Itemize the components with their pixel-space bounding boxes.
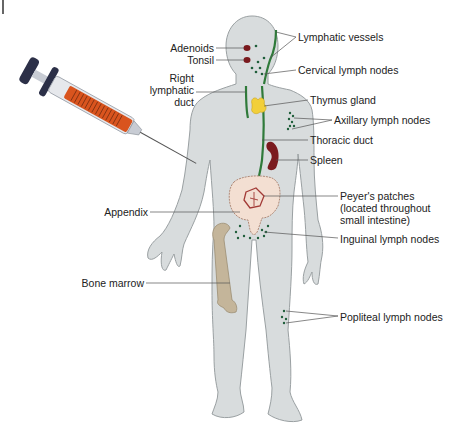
label-bone-marrow: Bone marrow [70, 277, 144, 289]
label-thoracic-duct: Thoracic duct [310, 134, 373, 146]
label-lymphatic-vessels: Lymphatic vessels [298, 31, 383, 43]
lymphatic-system-diagram: Adenoids Tonsil Right lymphatic duct App… [0, 0, 464, 444]
label-thymus-gland: Thymus gland [310, 94, 376, 106]
label-right-lymphatic-duct: Right lymphatic duct [134, 72, 194, 108]
label-popliteal-lymph-nodes: Popliteal lymph nodes [340, 311, 443, 323]
label-spleen: Spleen [310, 154, 343, 166]
label-cervical-lymph-nodes: Cervical lymph nodes [298, 64, 398, 76]
label-appendix: Appendix [90, 206, 148, 218]
label-inguinal-lymph-nodes: Inguinal lymph nodes [340, 233, 439, 245]
label-adenoids: Adenoids [150, 42, 214, 54]
thymus-organ [252, 98, 266, 114]
label-axillary-lymph-nodes: Axillary lymph nodes [334, 114, 430, 126]
label-tonsil: Tonsil [150, 54, 214, 66]
tonsil-organ [244, 57, 251, 63]
label-peyers-patches: Peyer's patches (located throughout smal… [340, 190, 430, 226]
adenoids-organ [244, 45, 251, 51]
